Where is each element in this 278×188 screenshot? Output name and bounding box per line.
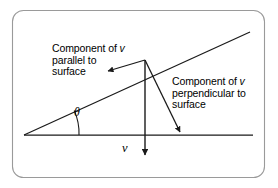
- parallel-component-label-line3: surface: [52, 66, 125, 78]
- parallel-label-text-1: Component of: [52, 42, 120, 54]
- perpendicular-component-label: Component of v perpendicular to surface: [172, 76, 246, 111]
- parallel-component-label: Component of v parallel to surface: [52, 43, 125, 78]
- figure-container: Component of v parallel to surface Compo…: [0, 0, 278, 188]
- perpendicular-component-label-line1: Component of v: [172, 76, 246, 88]
- perpendicular-component-label-line3: surface: [172, 99, 246, 111]
- perpendicular-label-text-1: Component of: [172, 75, 240, 87]
- parallel-component-label-line1: Component of v: [52, 43, 125, 55]
- theta-angle-label: θ: [74, 107, 80, 119]
- parallel-label-variable-v: v: [120, 42, 125, 54]
- perpendicular-label-variable-v: v: [240, 75, 245, 87]
- velocity-vector-label: v: [122, 143, 127, 155]
